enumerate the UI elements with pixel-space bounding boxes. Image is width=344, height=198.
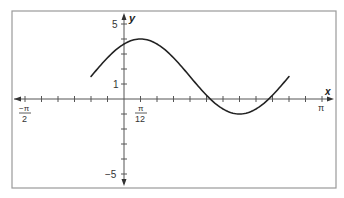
y-tick-label-5: 5 <box>112 19 118 30</box>
svg-text:−π: −π <box>19 104 30 113</box>
x-axis-label: x <box>324 86 331 97</box>
y-tick-label-1: 1 <box>113 79 119 90</box>
y-axis-arrow-up-icon <box>122 13 127 20</box>
x-tick-label-pi-over-12: π 12 <box>135 104 147 124</box>
x-axis <box>14 96 334 102</box>
x-tick-label-neg-pi-over-2: −π 2 <box>19 104 31 124</box>
y-tick-label-neg5: −5 <box>105 169 117 180</box>
sine-curve <box>91 39 289 114</box>
x-tick-label-pi: π <box>318 103 324 113</box>
x-axis-arrow-left-icon <box>14 97 21 102</box>
chart: y x 5 1 −5 −π 2 π 12 π <box>0 0 344 198</box>
x-axis-arrow-right-icon <box>327 97 334 102</box>
svg-text:12: 12 <box>135 114 145 124</box>
y-axis-arrow-down-icon <box>122 179 127 186</box>
svg-text:2: 2 <box>22 114 27 124</box>
y-axis-label: y <box>128 12 136 24</box>
svg-text:π: π <box>138 104 144 113</box>
